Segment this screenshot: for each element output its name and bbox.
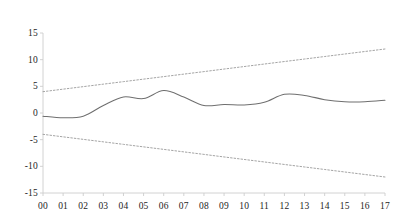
x-tick-00: 00 bbox=[32, 201, 54, 212]
x-tick-01: 01 bbox=[52, 201, 74, 212]
x-tick-03: 03 bbox=[92, 201, 114, 212]
chart-container: 151050-5-10-15 0001020304050607080910111… bbox=[0, 0, 401, 220]
x-tick-label: 10 bbox=[233, 201, 255, 212]
x-tick-label: 15 bbox=[334, 201, 356, 212]
x-tick-label: 09 bbox=[213, 201, 235, 212]
x-tick-02: 02 bbox=[72, 201, 94, 212]
x-tick-14: 14 bbox=[314, 201, 336, 212]
upper-bound-line bbox=[43, 49, 385, 92]
x-tick-13: 13 bbox=[294, 201, 316, 212]
y-tick-label: -5 bbox=[14, 135, 38, 145]
y-tick-label: 10 bbox=[14, 55, 38, 65]
x-tick-label: 08 bbox=[193, 201, 215, 212]
axis-group bbox=[43, 33, 385, 193]
x-tick-label: 17 bbox=[374, 201, 396, 212]
x-tick-16: 16 bbox=[354, 201, 376, 212]
lower-bound-line bbox=[43, 134, 385, 177]
y-tick-neg10: -10 bbox=[14, 161, 38, 171]
x-tick-17: 17 bbox=[374, 201, 396, 212]
x-tick-label: 14 bbox=[314, 201, 336, 212]
x-tick-11: 11 bbox=[253, 201, 275, 212]
chart-plot-area bbox=[0, 0, 401, 220]
x-tick-10: 10 bbox=[233, 201, 255, 212]
x-tick-label: 05 bbox=[133, 201, 155, 212]
x-tick-06: 06 bbox=[153, 201, 175, 212]
value-line bbox=[43, 91, 385, 118]
y-tick-label: -10 bbox=[14, 161, 38, 171]
y-tick-0: 0 bbox=[14, 108, 38, 118]
x-tick-label: 16 bbox=[354, 201, 376, 212]
x-tick-label: 06 bbox=[153, 201, 175, 212]
x-tick-label: 13 bbox=[294, 201, 316, 212]
x-tick-label: 00 bbox=[32, 201, 54, 212]
x-tick-label: 02 bbox=[72, 201, 94, 212]
y-tick-neg5: -5 bbox=[14, 135, 38, 145]
x-tick-label: 04 bbox=[112, 201, 134, 212]
x-tick-label: 01 bbox=[52, 201, 74, 212]
x-tick-09: 09 bbox=[213, 201, 235, 212]
y-tick-label: 5 bbox=[14, 81, 38, 91]
y-tick-neg15: -15 bbox=[14, 188, 38, 198]
x-tick-07: 07 bbox=[173, 201, 195, 212]
x-tick-label: 03 bbox=[92, 201, 114, 212]
x-tick-label: 12 bbox=[273, 201, 295, 212]
y-tick-label: 0 bbox=[14, 108, 38, 118]
x-tick-12: 12 bbox=[273, 201, 295, 212]
x-tick-label: 11 bbox=[253, 201, 275, 212]
x-tick-08: 08 bbox=[193, 201, 215, 212]
x-tick-04: 04 bbox=[112, 201, 134, 212]
x-tick-05: 05 bbox=[133, 201, 155, 212]
y-tick-label: -15 bbox=[14, 188, 38, 198]
y-tick-label: 15 bbox=[14, 28, 38, 38]
y-tick-5: 5 bbox=[14, 81, 38, 91]
y-tick-10: 10 bbox=[14, 55, 38, 65]
y-tick-15: 15 bbox=[14, 28, 38, 38]
x-tick-label: 07 bbox=[173, 201, 195, 212]
x-tick-15: 15 bbox=[334, 201, 356, 212]
